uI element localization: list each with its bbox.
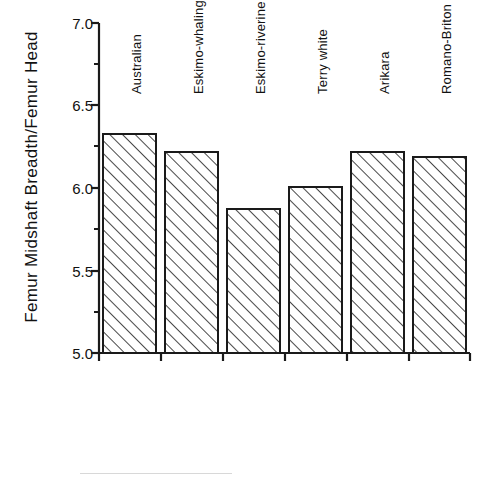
- footer-rule: [80, 473, 232, 474]
- bar-eskimo-riverine[interactable]: [227, 209, 280, 353]
- x-tick-label-terry-white: Terry white: [314, 0, 332, 94]
- bar-australian[interactable]: [103, 134, 156, 353]
- y-major-ticks: [91, 23, 99, 353]
- x-tick-label-romano-briton: Romano-Briton: [438, 0, 456, 94]
- x-ticks: [99, 353, 470, 361]
- bar-terry-white[interactable]: [289, 187, 342, 353]
- x-tick-label-eskimo-riverine: Eskimo-riverine: [252, 0, 270, 94]
- bar-romano-briton[interactable]: [413, 157, 466, 353]
- bar-arikara[interactable]: [351, 152, 404, 353]
- x-tick-label-arikara: Arikara: [376, 0, 394, 94]
- chart-container: Femur Midshaft Breadth/Femur Head 7.0 6.…: [0, 0, 484, 480]
- bar-eskimo-whaling[interactable]: [165, 152, 218, 353]
- x-tick-label-australian: Australian: [128, 0, 146, 94]
- x-tick-label-eskimo-whaling: Eskimo-whaling: [190, 0, 208, 94]
- bar-series: [103, 134, 466, 353]
- plot-area: [0, 0, 484, 480]
